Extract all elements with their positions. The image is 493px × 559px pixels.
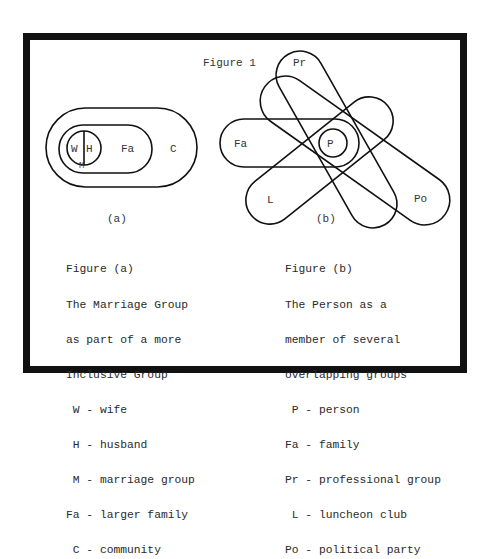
caption-a-line: The Marriage Group xyxy=(66,300,195,312)
label-family-a: Fa xyxy=(121,143,135,155)
key-item-political: Po - political party xyxy=(285,545,441,557)
caption-figure-b: Figure (b) The Person as a member of sev… xyxy=(285,241,441,559)
label-person: P xyxy=(327,138,334,150)
caption-a-line: as part of a more xyxy=(66,335,195,347)
figure-a-diagram: W H M Fa C (a) xyxy=(46,108,197,225)
label-wife: W xyxy=(71,143,78,155)
key-item-marriage: M - marriage group xyxy=(66,475,195,487)
figure-title: Figure 1 xyxy=(203,57,256,69)
caption-b-line: overlapping groups xyxy=(285,370,441,382)
label-community: C xyxy=(170,143,177,155)
key-item-wife: W - wife xyxy=(66,405,195,417)
label-husband: H xyxy=(86,143,93,155)
key-item-person: P - person xyxy=(285,405,441,417)
label-marriage: M xyxy=(79,161,84,171)
figure-b-diagram: P Fa Pr L Po (b) xyxy=(220,42,460,236)
label-political: Po xyxy=(414,193,427,205)
figure-a-sublabel: (a) xyxy=(107,213,127,225)
caption-b-heading: Figure (b) xyxy=(285,264,441,276)
caption-figure-a: Figure (a) The Marriage Group as part of… xyxy=(66,241,195,559)
key-item-husband: H - husband xyxy=(66,440,195,452)
key-item-family: Fa - larger family xyxy=(66,510,195,522)
key-item-luncheon: L - luncheon club xyxy=(285,510,441,522)
caption-a-line: Inclusive Group xyxy=(66,370,195,382)
caption-a-heading: Figure (a) xyxy=(66,264,195,276)
label-professional: Pr xyxy=(293,57,306,69)
key-item-community: C - community xyxy=(66,545,195,557)
key-item-family: Fa - family xyxy=(285,440,441,452)
label-family-b: Fa xyxy=(234,138,248,150)
key-item-professional: Pr - professional group xyxy=(285,475,441,487)
figure-b-sublabel: (b) xyxy=(316,213,336,225)
caption-b-line: member of several xyxy=(285,335,441,347)
label-luncheon: L xyxy=(267,194,274,206)
caption-b-line: The Person as a xyxy=(285,300,441,312)
